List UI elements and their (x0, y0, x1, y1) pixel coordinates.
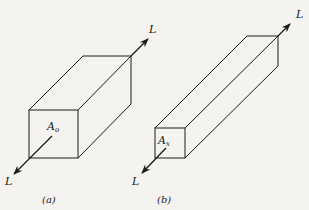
load-label-top-b: L (296, 9, 303, 20)
area-symbol: A (158, 134, 166, 147)
area-label-b: Ax (158, 135, 170, 148)
block-b (155, 36, 278, 158)
area-label-a: Ao (47, 121, 59, 134)
load-label-bottom-b: L (132, 176, 139, 187)
block-a (29, 56, 131, 158)
arrow-up-icon (131, 39, 148, 56)
figure: L Ao L (a) L Ax L (b) (0, 0, 309, 210)
area-subscript: o (55, 126, 59, 134)
arrow-up-icon (278, 24, 290, 36)
load-label-bottom-a: L (5, 176, 12, 187)
caption-b: (b) (157, 195, 171, 205)
area-symbol: A (47, 120, 55, 133)
arrow-down-icon (142, 148, 166, 173)
area-subscript: x (166, 140, 170, 148)
arrow-down-icon (14, 136, 52, 174)
caption-a: (a) (42, 195, 56, 205)
load-label-top-a: L (149, 24, 156, 35)
